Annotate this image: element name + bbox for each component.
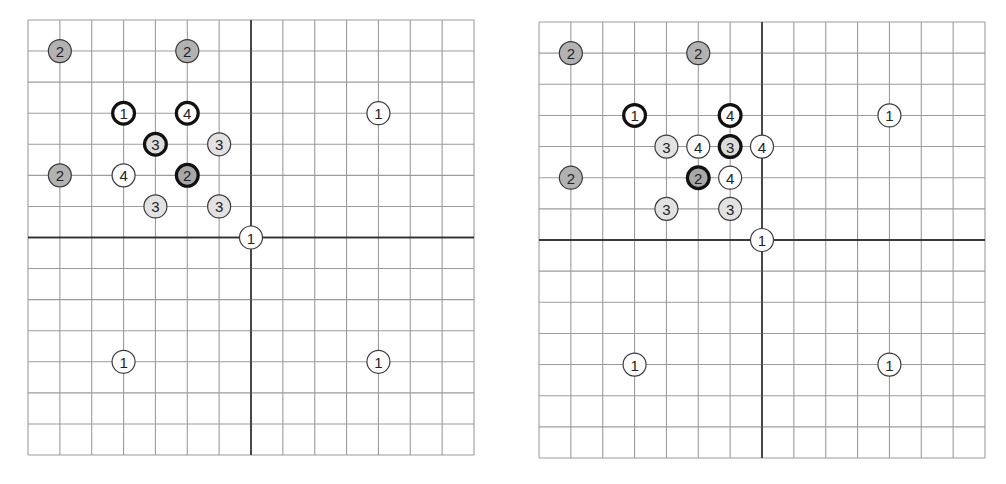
node-label: 3 xyxy=(151,136,159,153)
node-label: 2 xyxy=(694,170,702,187)
grid-node: 1 xyxy=(112,102,134,124)
node-label: 2 xyxy=(183,167,191,184)
grid-node: 4 xyxy=(751,135,774,158)
grid-node: 3 xyxy=(144,133,166,155)
node-label: 3 xyxy=(214,136,222,153)
grid-node: 1 xyxy=(112,350,135,373)
grid-node: 3 xyxy=(655,135,678,158)
node-label: 4 xyxy=(726,170,734,187)
grid-node: 2 xyxy=(560,42,583,65)
node-label: 4 xyxy=(119,167,127,184)
grid-node: 2 xyxy=(688,167,710,189)
node-label: 3 xyxy=(663,201,671,218)
grid-node: 3 xyxy=(143,195,166,218)
grid-node: 1 xyxy=(624,105,646,127)
grid-node: 3 xyxy=(719,198,742,221)
node-label: 3 xyxy=(663,139,671,156)
grid-node: 4 xyxy=(719,167,742,190)
node-label: 2 xyxy=(183,43,191,60)
grid-node: 3 xyxy=(207,133,230,156)
node-label: 4 xyxy=(758,139,766,156)
grid-node: 1 xyxy=(878,353,901,376)
node-label: 4 xyxy=(726,108,734,125)
grid-node: 4 xyxy=(687,135,710,158)
grid-node: 3 xyxy=(720,136,742,158)
left-grid-diagram: 221413324233111 xyxy=(12,4,490,471)
node-label: 1 xyxy=(758,232,766,249)
grid-node: 3 xyxy=(207,195,230,218)
node-label: 3 xyxy=(214,198,222,215)
grid-node: 1 xyxy=(751,229,774,252)
grid-node: 1 xyxy=(623,353,646,376)
node-label: 1 xyxy=(119,105,127,122)
node-label: 1 xyxy=(631,357,639,374)
grid-node: 2 xyxy=(176,164,198,186)
grid-node: 2 xyxy=(175,40,198,63)
grid-node: 4 xyxy=(720,105,742,127)
node-label: 1 xyxy=(119,354,127,371)
node-label: 3 xyxy=(726,139,734,156)
node-label: 2 xyxy=(567,170,575,187)
node-label: 2 xyxy=(567,45,575,62)
node-label: 2 xyxy=(55,43,63,60)
grid-node: 1 xyxy=(366,102,389,125)
node-label: 1 xyxy=(374,105,382,122)
node-label: 1 xyxy=(374,354,382,371)
grid-node: 1 xyxy=(366,350,389,373)
grid-node: 2 xyxy=(48,40,71,63)
node-label: 4 xyxy=(183,105,191,122)
right-grid-diagram: 22141343422433111 xyxy=(523,6,1001,474)
node-label: 2 xyxy=(694,45,702,62)
right-grid-svg: 22141343422433111 xyxy=(523,6,1001,474)
grid-node: 1 xyxy=(878,104,901,127)
grid-node: 4 xyxy=(112,164,135,187)
node-label: 4 xyxy=(694,139,702,156)
grid-node: 2 xyxy=(48,164,71,187)
node-label: 1 xyxy=(631,108,639,125)
node-label: 1 xyxy=(246,230,254,247)
node-label: 2 xyxy=(55,167,63,184)
grid-node: 1 xyxy=(239,226,262,249)
grid-node: 2 xyxy=(560,167,583,190)
node-label: 3 xyxy=(151,198,159,215)
node-label: 1 xyxy=(886,357,894,374)
node-label: 3 xyxy=(726,201,734,218)
node-label: 1 xyxy=(886,108,894,125)
grid-node: 3 xyxy=(655,198,678,221)
grid-node: 4 xyxy=(176,102,198,124)
grid-node: 2 xyxy=(687,42,710,65)
left-grid-svg: 221413324233111 xyxy=(12,4,490,471)
